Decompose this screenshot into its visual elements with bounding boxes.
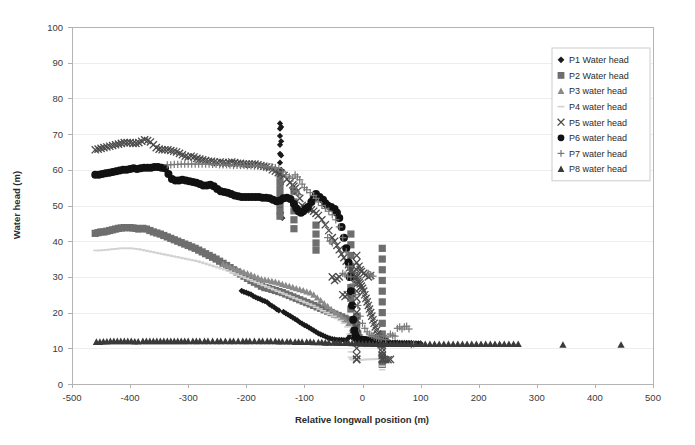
data-point bbox=[379, 320, 386, 327]
x-tick-label: -200 bbox=[237, 392, 256, 403]
y-tick-labels: 0102030405060708090100 bbox=[47, 22, 63, 390]
data-point bbox=[379, 255, 386, 262]
x-tick-label: 200 bbox=[471, 392, 487, 403]
x-tick-label: -300 bbox=[179, 392, 198, 403]
legend-item-p8[interactable]: P8 water head bbox=[558, 164, 627, 174]
data-point bbox=[312, 230, 319, 237]
y-tick-label: 20 bbox=[52, 307, 63, 318]
y-tick-label: 10 bbox=[52, 343, 63, 354]
data-point bbox=[379, 288, 386, 295]
x-axis-title: Relative longwall position (m) bbox=[295, 414, 429, 425]
legend-item-p1[interactable]: P1 Water head bbox=[558, 55, 629, 65]
x-tick-labels: -500-400-300-200-1000100200300400500 bbox=[62, 392, 660, 403]
data-point bbox=[290, 225, 297, 232]
data-point bbox=[379, 245, 386, 252]
data-point bbox=[312, 239, 319, 246]
legend-item-p4[interactable]: P4 water head bbox=[558, 102, 627, 112]
x-tick-label: 100 bbox=[413, 392, 429, 403]
data-point bbox=[347, 287, 355, 295]
legend-label: P2 Water head bbox=[569, 71, 629, 81]
data-point bbox=[379, 298, 386, 305]
scatter-chart: -500-400-300-200-1000100200300400500 010… bbox=[0, 0, 695, 445]
data-point bbox=[379, 277, 386, 284]
legend-label: P8 water head bbox=[569, 164, 627, 174]
legend-item-p2[interactable]: P2 Water head bbox=[558, 71, 629, 81]
y-axis-title: Water head (m) bbox=[11, 171, 22, 239]
legend-item-p6[interactable]: P6 water head bbox=[558, 133, 627, 143]
data-point bbox=[347, 230, 354, 237]
x-tick-label: -100 bbox=[295, 392, 314, 403]
y-tick-label: 40 bbox=[52, 236, 63, 247]
y-tick-label: 70 bbox=[52, 129, 63, 140]
data-point bbox=[335, 214, 343, 222]
legend-item-p5[interactable]: P5 water head bbox=[558, 118, 627, 128]
data-point bbox=[276, 179, 283, 186]
y-tick-label: 90 bbox=[52, 57, 63, 68]
y-tick-label: 80 bbox=[52, 93, 63, 104]
legend-box bbox=[552, 48, 650, 181]
x-tick-label: 0 bbox=[360, 392, 365, 403]
x-tick-label: -400 bbox=[121, 392, 140, 403]
legend-label: P1 Water head bbox=[569, 55, 629, 65]
y-tick-label: 100 bbox=[47, 22, 63, 33]
legend-item-p3[interactable]: P3 water head bbox=[558, 86, 627, 96]
y-tick-label: 60 bbox=[52, 164, 63, 175]
legend-marker-square-icon bbox=[558, 72, 565, 79]
y-axis-ticks bbox=[68, 28, 72, 385]
x-tick-label: 300 bbox=[529, 392, 545, 403]
data-point bbox=[276, 213, 283, 220]
chart-legend[interactable]: P1 Water headP2 Water headP3 water headP… bbox=[552, 48, 650, 181]
y-tick-label: 30 bbox=[52, 271, 63, 282]
legend-marker-circle-icon bbox=[558, 134, 565, 141]
data-point bbox=[312, 247, 319, 254]
legend-label: P6 water head bbox=[569, 133, 627, 143]
data-point bbox=[276, 186, 283, 193]
legend-label: P3 water head bbox=[569, 86, 627, 96]
data-point bbox=[290, 216, 297, 223]
data-point bbox=[349, 316, 357, 324]
data-point bbox=[379, 266, 386, 273]
legend-label: P7 water head bbox=[569, 149, 627, 159]
y-tick-label: 50 bbox=[52, 200, 63, 211]
legend-item-p7[interactable]: P7 water head bbox=[558, 149, 627, 159]
x-tick-label: 400 bbox=[587, 392, 603, 403]
x-tick-label: 500 bbox=[645, 392, 661, 403]
y-tick-label: 0 bbox=[58, 379, 63, 390]
x-tick-label: -500 bbox=[62, 392, 81, 403]
chart-canvas: -500-400-300-200-1000100200300400500 010… bbox=[0, 0, 695, 445]
data-point bbox=[379, 309, 386, 316]
legend-label: P5 water head bbox=[569, 118, 627, 128]
legend-label: P4 water head bbox=[569, 102, 627, 112]
x-axis-ticks bbox=[73, 384, 654, 388]
